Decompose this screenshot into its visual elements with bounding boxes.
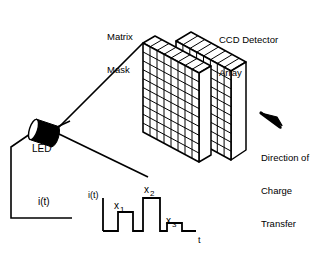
ccd-array-label-line1: CCD Detector: [219, 34, 278, 45]
charge-transfer-arrow: [261, 113, 282, 128]
light-cone: [57, 43, 148, 177]
pulse-label-x3: x3: [166, 215, 176, 230]
pulse-label-x1-sub: 1: [119, 205, 124, 214]
diagram-canvas: Matrix Mask CCD Detector Array Direction…: [0, 0, 321, 257]
pulse-label-x1: x1: [114, 200, 124, 215]
matrix-mask-label: Matrix Mask: [107, 9, 133, 97]
ccd-array-label: CCD Detector Array: [219, 12, 278, 100]
chart-y-axis-label: i(t): [88, 190, 99, 201]
wire-current-label: i(t): [38, 196, 50, 207]
matrix-mask-label-line1: Matrix: [107, 31, 133, 42]
pulse-label-x2: x2: [144, 184, 154, 199]
matrix-mask-label-line2: Mask: [107, 64, 133, 75]
direction-label-line3: Transfer: [261, 218, 309, 229]
direction-label-line1: Direction of: [261, 152, 309, 163]
direction-label-line2: Charge: [261, 185, 309, 196]
direction-of-charge-transfer-label: Direction of Charge Transfer: [261, 130, 309, 251]
ccd-array-label-line2: Array: [219, 67, 278, 78]
chart-x-axis-label: t: [198, 235, 201, 246]
pulse-label-x2-sub: 2: [149, 189, 154, 198]
led-label: LED: [32, 143, 51, 154]
pulse-label-x3-sub: 3: [171, 220, 176, 229]
